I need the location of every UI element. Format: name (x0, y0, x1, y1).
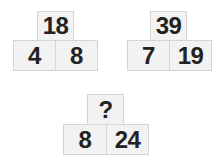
top-cell: 18 (37, 11, 74, 41)
bottom-right-cell: 19 (169, 40, 212, 71)
bottom-left-cell: 4 (13, 40, 56, 71)
bottom-left-cell: 7 (127, 40, 170, 71)
bottom-left-cell: 8 (63, 124, 107, 155)
top-cell: 39 (150, 11, 187, 41)
bottom-right-cell: 24 (106, 124, 149, 155)
unknown-answer-cell: ? (87, 94, 124, 125)
bottom-right-cell: 8 (55, 40, 98, 71)
